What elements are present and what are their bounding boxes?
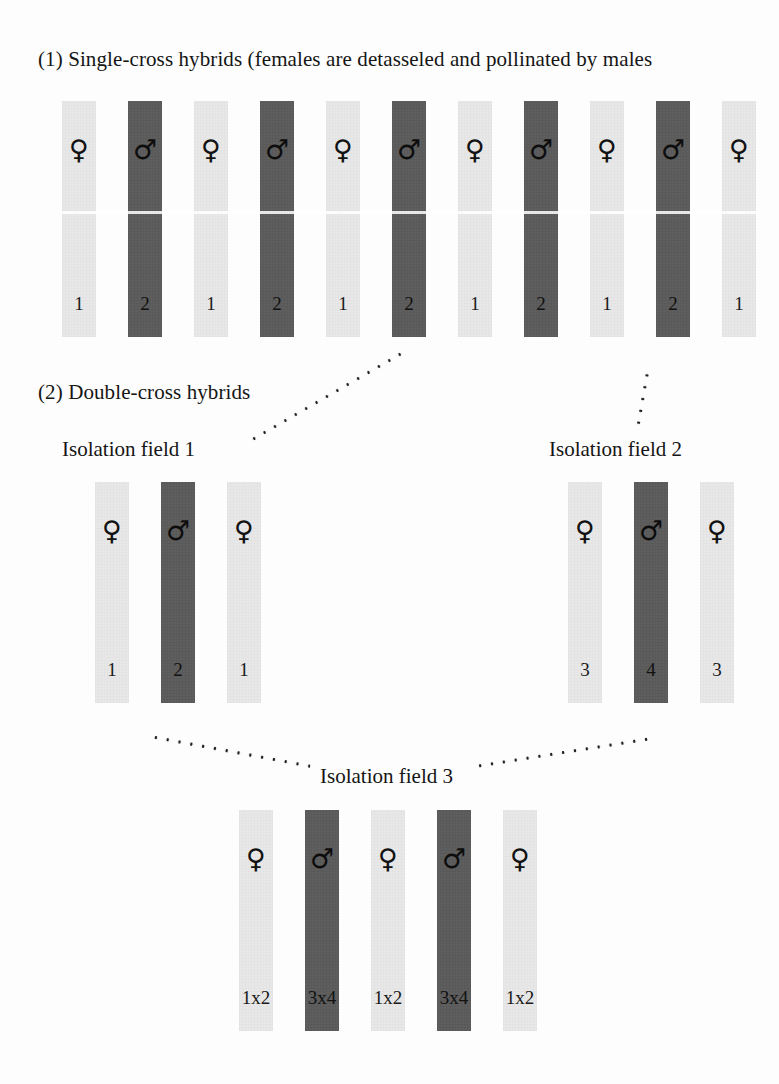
isolation-field-1-title: Isolation field 1 [62,437,195,462]
female-icon: ♀ [700,517,734,544]
plot-strip-label: 1x2 [371,988,405,1007]
male-icon: ♂ [634,517,668,544]
plot-strip-label: 2 [656,294,690,313]
male-icon: ♂ [128,136,162,163]
plot-strip-male: ♂2 [260,101,294,337]
isolation-field-3-title: Isolation field 3 [320,764,453,789]
female-icon: ♀ [62,136,96,163]
isolation-field-2-title: Isolation field 2 [549,437,682,462]
plot-strip-label: 1 [458,294,492,313]
connector-field2-to-field3 [475,737,652,768]
female-icon: ♀ [590,136,624,163]
plot-strip-female: ♀1x2 [371,810,405,1031]
plot-strip-male: ♂2 [161,482,195,703]
plot-strip-label: 3 [568,660,602,679]
plot-strip-female: ♀1 [194,101,228,337]
plot-strip-label: 2 [260,294,294,313]
plot-strip-label: 1 [590,294,624,313]
plot-strip-female: ♀1x2 [239,810,273,1031]
plot-strip-label: 3x4 [305,988,339,1007]
female-icon: ♀ [326,136,360,163]
female-icon: ♀ [568,517,602,544]
male-icon: ♂ [305,845,339,872]
female-icon: ♀ [239,845,273,872]
plot-strip-male: ♂3x4 [305,810,339,1031]
section-caption-double-cross: (2) Double-cross hybrids [38,380,250,405]
male-icon: ♂ [437,845,471,872]
plot-strip-label: 1x2 [503,988,537,1007]
plot-strip-label: 1 [95,660,129,679]
female-icon: ♀ [194,136,228,163]
female-icon: ♀ [227,517,261,544]
plot-strip-female: ♀1 [458,101,492,337]
male-icon: ♂ [656,136,690,163]
plot-strip-label: 4 [634,660,668,679]
female-icon: ♀ [371,845,405,872]
plot-strip-female: ♀1 [227,482,261,703]
plot-strip-male: ♂2 [524,101,558,337]
connector-field1-to-field3 [150,735,311,768]
female-icon: ♀ [722,136,756,163]
plot-strip-label: 3 [700,660,734,679]
plot-strip-female: ♀3 [568,482,602,703]
plot-strip-label: 1 [194,294,228,313]
plot-strip-female: ♀1 [722,101,756,337]
plot-strip-female: ♀1x2 [503,810,537,1031]
plot-strip-female: ♀1 [590,101,624,337]
connector-singlecross-to-field1 [248,350,405,443]
male-icon: ♂ [161,517,195,544]
plot-strip-male: ♂2 [656,101,690,337]
plot-strip-label: 3x4 [437,988,471,1007]
plot-strip-male: ♂4 [634,482,668,703]
plot-strip-label: 2 [392,294,426,313]
plot-strip-label: 1 [722,294,756,313]
connector-singlecross-to-field2 [635,369,649,433]
plot-strip-female: ♀1 [95,482,129,703]
plot-strip-female: ♀3 [700,482,734,703]
plot-strip-male: ♂2 [392,101,426,337]
male-icon: ♂ [392,136,426,163]
section-caption-single-cross: (1) Single-cross hybrids (females are de… [38,47,652,72]
plot-strip-label: 2 [524,294,558,313]
female-icon: ♀ [458,136,492,163]
plot-strip-label: 1 [62,294,96,313]
female-icon: ♀ [503,845,537,872]
plot-strip-label: 2 [161,660,195,679]
plot-strip-female: ♀1 [62,101,96,337]
female-icon: ♀ [95,517,129,544]
plot-strip-label: 1x2 [239,988,273,1007]
plot-strip-label: 1 [326,294,360,313]
plot-strip-female: ♀1 [326,101,360,337]
male-icon: ♂ [260,136,294,163]
plot-strip-label: 2 [128,294,162,313]
scan-seam-artifact [62,211,762,214]
plot-strip-male: ♂2 [128,101,162,337]
plot-strip-label: 1 [227,660,261,679]
plot-strip-male: ♂3x4 [437,810,471,1031]
male-icon: ♂ [524,136,558,163]
figure-canvas: (1) Single-cross hybrids (females are de… [0,0,779,1084]
